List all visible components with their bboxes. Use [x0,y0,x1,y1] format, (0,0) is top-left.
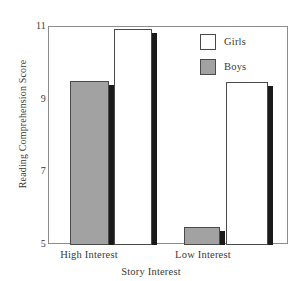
bar-girls-high-interest [114,29,152,245]
chart-legend: Girls Boys [200,32,284,82]
legend-label-girls: Girls [224,35,246,49]
x-tick-label-low-interest: Low Interest [148,248,258,261]
bar-shadow-girls-low-interest [268,86,273,245]
x-tick-label-high-interest: High Interest [34,248,144,261]
bar-boys-low-interest [184,227,220,245]
y-tick-label-9: 9 [0,93,46,105]
chart-figure: Reading Comprehension Score 11 9 7 5 Gir… [0,0,302,281]
bar-shadow-boys-low-interest [220,231,225,245]
legend-item-girls: Girls [200,32,284,54]
legend-swatch-girls-icon [200,34,216,50]
y-axis-label: Reading Comprehension Score [17,39,29,209]
plot-area: Girls Boys [48,26,288,244]
legend-label-boys: Boys [224,60,246,74]
bar-girls-low-interest [226,82,268,245]
x-axis-label: Story Interest [0,265,302,278]
bar-boys-high-interest [70,81,109,245]
y-tick-label-7: 7 [0,165,46,177]
legend-swatch-boys-icon [200,59,216,75]
bar-shadow-girls-high-interest [152,33,157,245]
y-tick-label-11: 11 [0,20,46,32]
legend-item-boys: Boys [200,57,284,79]
